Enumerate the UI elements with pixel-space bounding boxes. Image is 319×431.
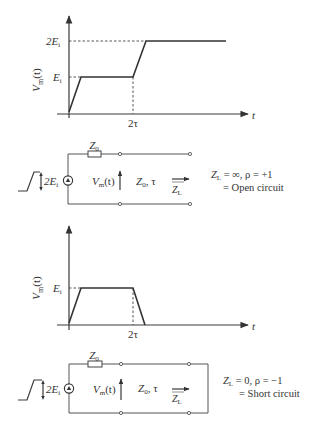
voltage-source-icon [63,176,72,185]
y-tick-ei: Ei [52,71,62,85]
y-tick-ei: Ei [52,282,62,296]
terminal-dot [188,202,191,205]
wire-left-top [68,154,88,176]
x-tick-2tau: 2τ [128,328,139,340]
waveform-open [69,41,226,112]
x-axis-label: t [252,320,256,332]
waveform-short [69,288,145,325]
x-tick-2tau: 2τ [128,117,139,129]
y-axis-label: Vm(t) [30,276,45,300]
terminal-dot [119,411,122,414]
bottom-voltage-graph: t Vm(t) Ei 2τ [30,226,256,340]
terminal-dot [118,202,121,205]
condition-line-2: = Short circuit [239,388,300,399]
line-params-label: Z0, τ [136,175,156,189]
bottom-circuit: Z0 2Ei Vm(t) Z0, τ ZL ZL = 0, ρ = −1 = S… [18,349,300,415]
transmission-line-reflection-figure: t Vm(t) 2Ei Ei 2τ Z0 [0,0,319,431]
zl-label: ZL [172,184,182,197]
svg-text:Vm(t): Vm(t) [30,276,45,300]
source-amplitude-label: 2Ei [44,175,58,189]
vm-label: Vm(t) [93,383,116,397]
condition-line-1: ZL = ∞, ρ = +1 [211,169,273,182]
x-axis-label: t [252,109,256,121]
zl-label: ZL [172,393,182,406]
terminal-dot [119,362,122,365]
condition-line-2: = Open circuit [223,182,284,193]
top-circuit: Z0 2Ei Vm(t) Z0, τ ZL ZL = ∞, ρ = +1 = O… [18,139,284,206]
wire-left-top [69,364,88,384]
step-symbol-icon [18,172,40,191]
y-tick-2ei: 2Ei [46,35,60,49]
svg-text:Vm(t): Vm(t) [30,68,45,92]
vm-label: Vm(t) [92,175,115,189]
line-params-label: Z0, τ [138,382,158,396]
terminal-dot [187,362,190,365]
terminal-dot [188,152,191,155]
y-axis-label: Vm(t) [30,68,45,92]
wire-bottom [69,393,208,413]
condition-line-1: ZL = 0, ρ = −1 [223,375,282,388]
resistor-z0 [88,151,101,157]
voltage-source-icon [64,384,73,393]
resistor-z0 [88,361,102,367]
terminal-dot [187,411,190,414]
step-symbol-icon [18,380,42,400]
top-voltage-graph: t Vm(t) 2Ei Ei 2τ [30,16,256,129]
terminal-dot [118,152,121,155]
source-amplitude-label: 2Ei [46,383,60,397]
